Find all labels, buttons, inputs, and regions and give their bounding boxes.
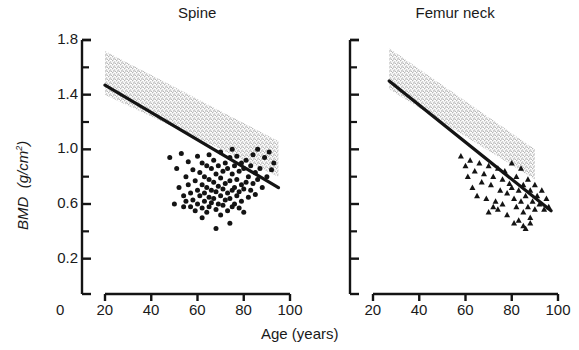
plot-canvas: [0, 0, 579, 350]
x-tick-label-origin: 0: [56, 301, 64, 318]
y-tick-label-1.8: 1.8: [34, 30, 78, 47]
y-tick-label-0.6: 0.6: [34, 194, 78, 211]
x-tick-label-1-40: 40: [411, 301, 428, 318]
y-tick-label-1.4: 1.4: [34, 85, 78, 102]
x-tick-label-0-60: 60: [189, 301, 206, 318]
x-tick-label-0-100: 100: [278, 301, 303, 318]
x-tick-label-1-100: 100: [546, 301, 571, 318]
x-tick-label-1-80: 80: [503, 301, 520, 318]
x-tick-label-1-60: 60: [457, 301, 474, 318]
y-tick-label-0.2: 0.2: [34, 249, 78, 266]
x-tick-label-0-20: 20: [97, 301, 114, 318]
x-tick-label-1-20: 20: [365, 301, 382, 318]
figure-bmd-vs-age: Spine Femur neck BMD (g/cm2) Age (years)…: [0, 0, 579, 350]
x-tick-label-0-80: 80: [235, 301, 252, 318]
x-tick-label-0-40: 40: [143, 301, 160, 318]
y-tick-label-1.0: 1.0: [34, 139, 78, 156]
